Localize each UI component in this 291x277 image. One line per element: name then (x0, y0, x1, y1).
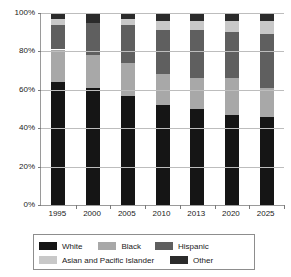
plot-area (40, 13, 284, 206)
legend-item-hispanic: Hispanic (155, 242, 209, 251)
bar-segment-hispanic (190, 30, 204, 78)
bar-segment-asian-and-pacific-islander (121, 19, 135, 25)
x-tick-label: 2000 (76, 209, 108, 218)
gridline (41, 128, 284, 129)
plot-wrapper: 0%20%40%60%80%100% 199520002005201020132… (0, 0, 291, 228)
legend-row-1: White Black Hispanic (39, 239, 249, 253)
gridline (41, 13, 284, 14)
bar-column[interactable] (86, 13, 100, 205)
legend-label-white: White (62, 242, 82, 251)
legend-item-asian-and-pacific-islander: Asian and Pacific Islander (39, 256, 154, 265)
legend-swatch-black (98, 242, 116, 250)
y-tick-mark (38, 51, 41, 52)
bar-segment-black (225, 78, 239, 114)
gridline (41, 90, 284, 91)
bar-column[interactable] (156, 13, 170, 205)
y-tick-label: 100% (15, 9, 35, 17)
bar-segment-black (51, 50, 65, 83)
bar-segment-black (260, 88, 274, 117)
x-tick-mark (284, 205, 285, 209)
bar-segment-asian-and-pacific-islander (260, 21, 274, 34)
bar-segment-hispanic (225, 32, 239, 78)
bar-segment-other (86, 13, 100, 23)
bar-segment-asian-and-pacific-islander (225, 21, 239, 33)
legend-item-white: White (39, 242, 82, 251)
x-axis-labels: 1995200020052010201320202025 (40, 209, 283, 223)
legend-label-black: Black (121, 242, 141, 251)
y-tick-mark (38, 205, 41, 206)
bar-column[interactable] (260, 13, 274, 205)
legend-swatch-asian-and-pacific-islander (39, 256, 57, 264)
gridline (41, 51, 284, 52)
bar-segment-hispanic (86, 23, 100, 56)
x-tick-label: 2013 (180, 209, 212, 218)
y-tick-label: 80% (19, 47, 35, 55)
x-tick-label: 2020 (215, 209, 247, 218)
x-tick-label: 2010 (146, 209, 178, 218)
bar-segment-black (86, 55, 100, 88)
legend-item-other: Other (170, 256, 213, 265)
legend-label-hispanic: Hispanic (178, 242, 209, 251)
bars-layer (41, 13, 284, 205)
bar-segment-other (260, 13, 274, 21)
legend-item-black: Black (98, 242, 141, 251)
bar-segment-hispanic (51, 25, 65, 50)
bar-column[interactable] (225, 13, 239, 205)
y-tick-mark (38, 13, 41, 14)
bar-segment-white (190, 109, 204, 205)
y-tick-label: 20% (19, 163, 35, 171)
y-tick-label: 60% (19, 86, 35, 94)
y-tick-label: 40% (19, 124, 35, 132)
legend-row-2: Asian and Pacific Islander Other (39, 253, 249, 267)
x-tick-label: 1995 (41, 209, 73, 218)
x-tick-label: 2025 (250, 209, 282, 218)
y-axis-labels: 0%20%40%60%80%100% (0, 0, 38, 228)
stacked-bar-chart: 0%20%40%60%80%100% 199520002005201020132… (0, 0, 291, 277)
legend-swatch-other (170, 256, 188, 264)
y-tick-mark (38, 167, 41, 168)
bar-segment-other (225, 13, 239, 21)
y-tick-mark (38, 128, 41, 129)
bar-segment-asian-and-pacific-islander (51, 19, 65, 25)
x-tick-label: 2005 (111, 209, 143, 218)
legend-swatch-white (39, 242, 57, 250)
bar-segment-other (190, 13, 204, 21)
bar-segment-hispanic (260, 34, 274, 88)
chart-legend: White Black Hispanic Asian and Pacific I… (33, 234, 255, 270)
bar-segment-white (156, 105, 170, 205)
legend-swatch-hispanic (155, 242, 173, 250)
bar-column[interactable] (51, 13, 65, 205)
legend-label-asian-and-pacific-islander: Asian and Pacific Islander (62, 256, 154, 265)
bar-segment-white (260, 117, 274, 205)
gridline (41, 167, 284, 168)
legend-label-other: Other (193, 256, 213, 265)
y-tick-label: 0% (23, 201, 35, 209)
bar-segment-black (190, 78, 204, 109)
bar-segment-white (86, 88, 100, 205)
bar-segment-white (51, 82, 65, 205)
bar-column[interactable] (190, 13, 204, 205)
bar-segment-hispanic (121, 25, 135, 63)
bar-segment-other (156, 13, 170, 21)
bar-segment-asian-and-pacific-islander (190, 21, 204, 31)
y-tick-mark (38, 90, 41, 91)
bar-segment-white (121, 96, 135, 205)
bar-segment-asian-and-pacific-islander (156, 21, 170, 31)
bar-column[interactable] (121, 13, 135, 205)
